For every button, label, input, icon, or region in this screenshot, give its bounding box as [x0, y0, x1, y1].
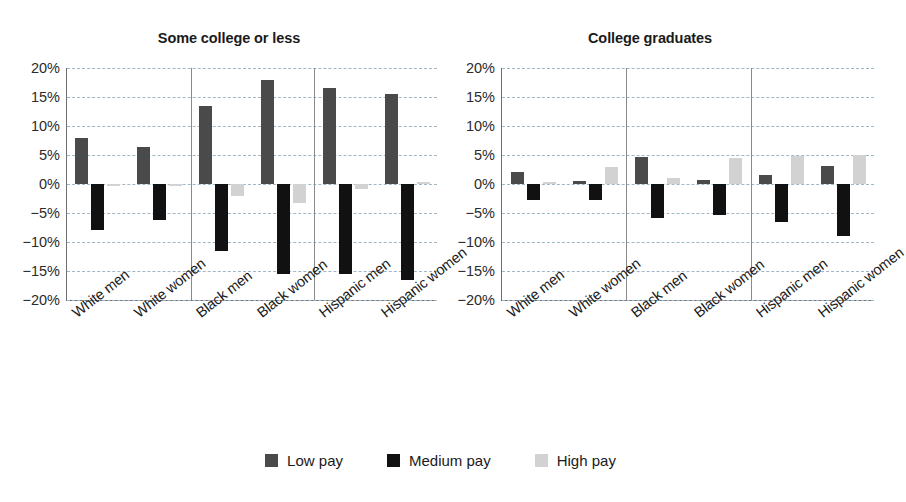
bar	[589, 184, 602, 200]
gridline	[502, 213, 874, 214]
bar	[837, 184, 850, 236]
bar	[511, 172, 524, 184]
y-axis-tick-label: 0%	[0, 176, 60, 192]
gridline	[502, 155, 874, 156]
y-axis-tick-label: 10%	[0, 118, 60, 134]
y-axis-tick-label: −20%	[0, 292, 60, 308]
legend-item[interactable]: Low pay	[265, 452, 343, 469]
gridline	[502, 300, 874, 301]
panel-title: Some college or less	[0, 30, 440, 46]
y-axis-tick-label: 0%	[435, 176, 495, 192]
bar	[697, 180, 710, 184]
legend-item[interactable]: Medium pay	[387, 452, 491, 469]
bar	[543, 182, 556, 184]
y-axis-tick-label: 20%	[0, 60, 60, 76]
gridline	[67, 300, 437, 301]
bar	[107, 184, 120, 186]
bar	[385, 94, 398, 184]
bar	[667, 178, 680, 184]
bar	[401, 184, 414, 280]
bar	[277, 184, 290, 274]
bar	[355, 184, 368, 189]
panel-title: College graduates	[441, 30, 881, 46]
x-axis-labels-left: White menWhite womenBlack menBlack women…	[66, 302, 436, 432]
chart-panel-college-graduates: College graduates 20%15%10%5%0%−5%−10%−1…	[441, 0, 881, 440]
bar	[527, 184, 540, 200]
gridline	[502, 126, 874, 127]
bar	[635, 157, 648, 184]
y-axis-tick-label: 5%	[435, 147, 495, 163]
bar	[215, 184, 228, 251]
gridline	[502, 242, 874, 243]
bar	[791, 156, 804, 184]
gridline	[67, 97, 437, 98]
bar	[729, 158, 742, 184]
y-axis-tick-label: 5%	[0, 147, 60, 163]
legend-label: Medium pay	[409, 452, 491, 469]
y-axis-tick-label: 15%	[435, 89, 495, 105]
bar	[75, 138, 88, 184]
chart-legend: Low payMedium payHigh pay	[0, 452, 881, 469]
x-axis-labels-right: White menWhite womenBlack menBlack women…	[501, 302, 873, 432]
gridline	[502, 68, 874, 69]
bar	[137, 147, 150, 184]
chart-panel-some-college-or-less: Some college or less 20%15%10%5%0%−5%−10…	[0, 0, 440, 440]
legend-item[interactable]: High pay	[535, 452, 616, 469]
gridline	[67, 155, 437, 156]
y-axis-tick-label: 10%	[435, 118, 495, 134]
bar	[231, 184, 244, 196]
y-axis-tick-label: −10%	[435, 234, 495, 250]
bar	[821, 166, 834, 184]
gridline	[502, 184, 874, 185]
y-axis-tick-label: −5%	[435, 205, 495, 221]
bar	[153, 184, 166, 220]
y-axis-tick-label: 20%	[435, 60, 495, 76]
y-axis-tick-label: −15%	[0, 263, 60, 279]
gridline	[502, 97, 874, 98]
bar	[199, 106, 212, 184]
legend-swatch-icon	[265, 454, 278, 467]
legend-label: High pay	[557, 452, 616, 469]
bar	[775, 184, 788, 222]
legend-swatch-icon	[387, 454, 400, 467]
bar	[323, 88, 336, 184]
legend-swatch-icon	[535, 454, 548, 467]
gridline	[67, 213, 437, 214]
y-axis-tick-label: −5%	[0, 205, 60, 221]
gridline	[67, 184, 437, 185]
y-axis-tick-label: 15%	[0, 89, 60, 105]
bar	[417, 182, 430, 184]
gridline	[67, 242, 437, 243]
bar	[339, 184, 352, 274]
bar	[91, 184, 104, 230]
bar	[651, 184, 664, 218]
y-axis-tick-label: −15%	[435, 263, 495, 279]
bar	[169, 184, 182, 186]
bar	[713, 184, 726, 215]
bar	[293, 184, 306, 203]
bar	[853, 155, 866, 184]
gridline	[67, 126, 437, 127]
bar	[759, 175, 772, 184]
y-axis-tick-label: −20%	[435, 292, 495, 308]
gridline	[67, 68, 437, 69]
legend-label: Low pay	[287, 452, 343, 469]
bar	[261, 80, 274, 184]
bar	[605, 167, 618, 184]
bar	[573, 181, 586, 184]
y-axis-tick-label: −10%	[0, 234, 60, 250]
